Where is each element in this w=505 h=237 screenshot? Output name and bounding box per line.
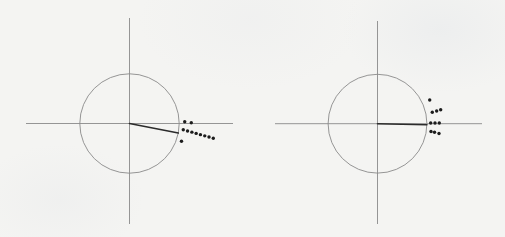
data-point <box>437 132 440 135</box>
data-point <box>433 121 436 124</box>
data-point <box>180 140 183 143</box>
data-point <box>212 137 215 140</box>
unit-circle-plot-right <box>252 0 505 237</box>
data-point <box>439 108 442 111</box>
data-point <box>199 133 202 136</box>
data-point <box>438 121 441 124</box>
data-point <box>190 121 193 124</box>
radius-needle <box>378 124 427 125</box>
data-point <box>431 111 434 114</box>
data-point <box>194 132 197 135</box>
data-point <box>435 109 438 112</box>
plot-canvas <box>0 0 252 237</box>
data-point <box>207 135 210 138</box>
unit-circle-plot-left <box>0 0 252 237</box>
data-point <box>182 128 185 131</box>
data-point <box>186 129 189 132</box>
data-point <box>428 98 431 101</box>
data-point <box>203 134 206 137</box>
data-point <box>433 131 436 134</box>
data-point <box>429 130 432 133</box>
data-point <box>190 130 193 133</box>
radius-needle <box>130 124 179 133</box>
data-point <box>429 121 432 124</box>
plot-canvas <box>252 0 505 237</box>
data-point <box>183 120 186 123</box>
scanned-figure <box>0 0 505 237</box>
